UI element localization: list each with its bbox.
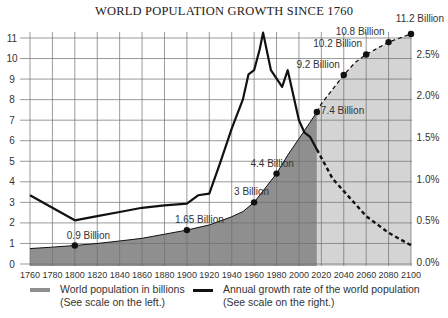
x-axis-tick: 1960 — [244, 270, 264, 280]
data-point-marker — [314, 109, 320, 115]
legend-label-population: World population in billions (See scale … — [60, 283, 185, 309]
left-axis-tick: 4 — [9, 176, 15, 187]
annotation-label: 10.2 Billion — [313, 38, 362, 49]
left-axis-tick: 2 — [9, 217, 15, 228]
x-axis-tick: 1780 — [42, 270, 62, 280]
annotation-label: 4.4 Billion — [251, 158, 294, 169]
data-point-marker — [363, 51, 369, 57]
annotation-label: 10.8 Billion — [336, 26, 385, 37]
data-point-marker — [251, 199, 257, 205]
right-axis-tick: 1.0% — [417, 174, 440, 185]
left-axis-tick: 9 — [9, 74, 15, 85]
right-axis-tick: 1.5% — [417, 132, 440, 143]
x-axis-tick: 1760 — [20, 270, 40, 280]
x-axis-tick: 1920 — [199, 270, 219, 280]
x-axis-tick: 1980 — [267, 270, 287, 280]
data-point-marker — [341, 72, 347, 78]
data-point-marker — [273, 170, 279, 176]
left-axis-tick: 6 — [9, 135, 15, 146]
x-axis-tick: 2000 — [289, 270, 309, 280]
left-axis-tick: 8 — [9, 94, 15, 105]
x-axis-tick: 2100 — [401, 270, 421, 280]
right-axis-tick: 2.0% — [417, 90, 440, 101]
population-chart: 0123456789101117601780180018201840186018… — [0, 0, 448, 318]
legend-swatch-line — [193, 289, 213, 292]
x-axis-tick: 1840 — [110, 270, 130, 280]
x-axis-tick: 1860 — [132, 270, 152, 280]
legend-label-growth: Annual growth rate of the world populati… — [223, 283, 420, 309]
x-axis-tick: 1900 — [177, 270, 197, 280]
x-axis-tick: 2040 — [334, 270, 354, 280]
annotation-label: 3 Billion — [234, 186, 269, 197]
annotation-label: 11.2 Billion — [396, 13, 444, 24]
data-point-marker — [408, 31, 414, 37]
annotation-label: 1.65 Billion — [175, 214, 224, 225]
left-axis-tick: 7 — [9, 115, 15, 126]
annotation-label: 0.9 Billion — [67, 230, 110, 241]
x-axis-tick: 2080 — [379, 270, 399, 280]
x-axis-tick: 2060 — [356, 270, 376, 280]
data-point-marker — [385, 39, 391, 45]
legend-swatch-area — [30, 288, 50, 292]
right-axis-tick: 0.5% — [417, 215, 440, 226]
annotation-label: 7.4 Billion — [321, 105, 364, 116]
x-axis-tick: 1940 — [222, 270, 242, 280]
right-axis-tick: 2.5% — [417, 49, 440, 60]
x-axis-tick: 1880 — [154, 270, 174, 280]
left-axis-tick: 10 — [6, 53, 18, 64]
x-axis-tick: 1820 — [87, 270, 107, 280]
left-axis-tick: 3 — [9, 197, 15, 208]
data-point-marker — [184, 227, 190, 233]
left-axis-tick: 5 — [9, 156, 15, 167]
annotation-label: 9.2 Billion — [296, 59, 339, 70]
x-axis-tick: 2020 — [311, 270, 331, 280]
left-axis-tick: 0 — [9, 259, 15, 270]
right-axis-tick: 0.0% — [417, 257, 440, 268]
data-point-marker — [72, 242, 78, 248]
left-axis-tick: 11 — [7, 33, 18, 44]
left-axis-tick: 1 — [9, 238, 15, 249]
x-axis-tick: 1800 — [65, 270, 85, 280]
